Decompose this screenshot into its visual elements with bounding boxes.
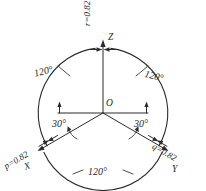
horizontal-left-arrowhead	[57, 102, 61, 108]
angle-30-left-label: 30°	[52, 119, 66, 129]
circle-arc-x-to-z	[38, 48, 95, 146]
axonometric-axes-figure: r=0.82 Z O 120° 120° 120° 30° 30° p=0.82…	[0, 0, 206, 191]
horizontal-right-arrowhead	[144, 102, 148, 108]
angle-120-bottom-label: 120°	[88, 167, 107, 177]
origin-label: O	[106, 99, 113, 109]
angle-30-right-label: 30°	[134, 119, 148, 129]
z-axis-line	[100, 40, 105, 114]
diagram-canvas	[0, 0, 206, 191]
circle-arc-z-to-y	[111, 48, 168, 146]
y-axis-label: Y	[172, 165, 177, 175]
r-coefficient-label: r=0.82	[83, 1, 92, 26]
z-axis-label: Z	[108, 33, 113, 43]
z-axis-arrowhead	[100, 40, 105, 48]
